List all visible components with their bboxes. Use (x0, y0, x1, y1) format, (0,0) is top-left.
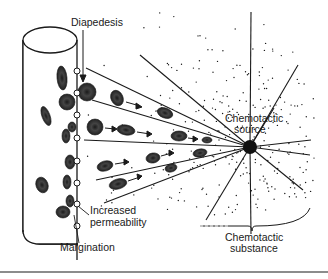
label-chemotactic-source-2: source (234, 123, 266, 135)
chemotactic-source-dot (243, 140, 257, 154)
chemotaxis-diagram: Diapedesis Chemotactic source Increased … (0, 0, 328, 279)
label-chemotactic-substance-2: substance (230, 242, 278, 254)
diapedesis-pointer (80, 30, 86, 82)
label-increased-permeability-1: Increased (90, 204, 136, 216)
leukocytes-migrating (78, 83, 212, 191)
chemotactic-substance-brace (200, 208, 310, 231)
label-margination: Margination (60, 241, 115, 253)
permeability-pointer (78, 206, 89, 215)
blood-vessel (23, 27, 78, 260)
label-diapedesis: Diapedesis (71, 16, 123, 28)
label-increased-permeability-2: permeability (90, 216, 147, 228)
